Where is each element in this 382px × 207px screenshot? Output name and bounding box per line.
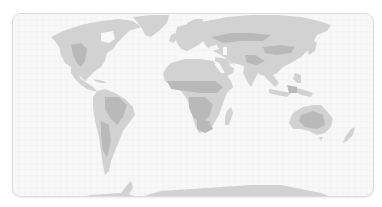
world-map-card[interactable] [12,13,374,197]
tasmania-region [319,137,323,141]
sahel-region [167,81,223,93]
antarctica-region [61,185,331,197]
philippines-region [293,73,301,83]
mediterranean-region [179,51,211,59]
caribbean-region [93,79,107,83]
world-map[interactable] [12,13,374,197]
caspian-region [223,47,227,55]
indonesia-1-region [269,89,291,97]
